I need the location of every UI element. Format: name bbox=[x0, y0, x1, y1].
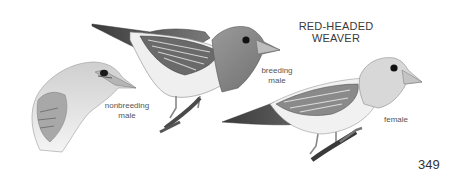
caption-line: male bbox=[258, 76, 296, 86]
caption-nonbreeding-male: nonbreeding male bbox=[103, 101, 151, 120]
page-number: 349 bbox=[418, 157, 440, 172]
caption-breeding-male: breeding male bbox=[258, 66, 296, 85]
species-title-line-1: RED-HEADED bbox=[286, 20, 386, 32]
caption-line: breeding bbox=[258, 66, 296, 76]
species-title-line-2: WEAVER bbox=[286, 32, 386, 44]
species-title: RED-HEADED WEAVER bbox=[286, 20, 386, 44]
caption-line: nonbreeding bbox=[103, 101, 151, 111]
field-guide-page: RED-HEADED WEAVER nonbreeding male breed… bbox=[0, 0, 453, 179]
caption-line: female bbox=[379, 115, 413, 125]
caption-female: female bbox=[379, 115, 413, 125]
caption-line: male bbox=[103, 111, 151, 121]
